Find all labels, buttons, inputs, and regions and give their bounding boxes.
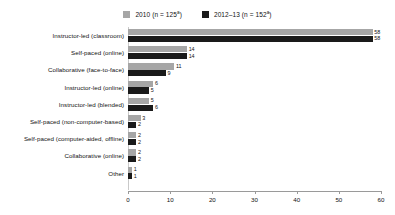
- chart-legend: 2010 (n = 125a) 2012–13 (n = 152a): [0, 10, 395, 18]
- legend-label-2012-13: 2012–13 (n = 152a): [214, 10, 272, 18]
- bar-value-label: 11: [176, 62, 182, 70]
- chart-row: Self-paced (online)1414: [0, 44, 395, 61]
- bar-series-2012-13: [128, 87, 149, 93]
- chart-row: Instructor-led (classroom)5858: [0, 27, 395, 44]
- bar-series-2010: [128, 98, 149, 104]
- legend-swatch-2010: [123, 11, 130, 18]
- category-label: Instructor-led (blended): [0, 101, 128, 108]
- bar-value-label: 6: [155, 103, 158, 111]
- legend-entry-2012-13: 2012–13 (n = 152a): [202, 10, 272, 18]
- bar-group: 22: [128, 147, 381, 164]
- bar-series-2012-13: [128, 139, 136, 145]
- category-label: Self-paced (computer-aided, offline): [0, 135, 128, 142]
- chart-row: Self-paced (computer-aided, offline)22: [0, 130, 395, 147]
- chart-row: Collaborative (face-to-face)119: [0, 61, 395, 78]
- bar-group: 11: [128, 165, 381, 182]
- bar-series-2010: [128, 29, 373, 35]
- x-axis-tick-label: 30: [251, 196, 258, 203]
- bar-group: 22: [128, 130, 381, 147]
- bar-value-label: 9: [168, 69, 171, 77]
- x-axis-tick: [255, 191, 256, 194]
- x-axis-tick: [170, 191, 171, 194]
- legend-label-2010: 2010 (n = 125a): [135, 10, 182, 18]
- x-axis-tick: [381, 191, 382, 194]
- bar-value-label: 14: [189, 52, 195, 60]
- x-axis-tick: [212, 191, 213, 194]
- bar-series-2010: [128, 46, 187, 52]
- x-axis-tick-label: 10: [167, 196, 174, 203]
- category-label: Self-paced (non-computer-based): [0, 118, 128, 125]
- x-axis-tick-label: 60: [378, 196, 385, 203]
- chart-row: Collaborative (online)22: [0, 147, 395, 164]
- category-label: Instructor-led (classroom): [0, 32, 128, 39]
- bar-series-2012-13: [128, 36, 373, 42]
- bar-value-label: 3: [142, 114, 145, 122]
- legend-swatch-2012-13: [202, 11, 209, 18]
- category-label: Self-paced (online): [0, 49, 128, 56]
- legend-label-2012-13-text: 2012–13 (n = 152: [214, 11, 267, 18]
- bar-value-label: 2: [138, 120, 141, 128]
- bar-series-2010: [128, 167, 132, 173]
- bar-value-label: 5: [151, 96, 154, 104]
- chart-row: Instructor-led (online)65: [0, 79, 395, 96]
- bar-value-label: 6: [155, 79, 158, 87]
- bar-group: 119: [128, 61, 381, 78]
- category-label: Collaborative (face-to-face): [0, 66, 128, 73]
- category-label: Collaborative (online): [0, 152, 128, 159]
- x-axis-tick-label: 0: [126, 196, 129, 203]
- plot-area: Instructor-led (classroom)5858Self-paced…: [0, 27, 395, 190]
- bar-rows: Instructor-led (classroom)5858Self-paced…: [0, 27, 395, 182]
- category-label: Other: [0, 170, 128, 177]
- bar-group: 56: [128, 96, 381, 113]
- bar-series-2010: [128, 132, 136, 138]
- bar-value-label: 58: [374, 34, 380, 42]
- bar-group: 32: [128, 113, 381, 130]
- category-label: Instructor-led (online): [0, 84, 128, 91]
- bar-series-2012-13: [128, 156, 136, 162]
- bar-series-2012-13: [128, 173, 132, 179]
- bar-value-label: 1: [134, 172, 137, 180]
- x-axis-tick-label: 50: [335, 196, 342, 203]
- x-axis-tick: [128, 191, 129, 194]
- bar-group: 65: [128, 79, 381, 96]
- x-axis-tick: [297, 191, 298, 194]
- bar-series-2012-13: [128, 53, 187, 59]
- chart-row: Instructor-led (blended)56: [0, 96, 395, 113]
- bar-series-2010: [128, 149, 136, 155]
- x-axis-tick-label: 40: [293, 196, 300, 203]
- bar-group: 1414: [128, 44, 381, 61]
- bar-series-2012-13: [128, 122, 136, 128]
- bar-series-2012-13: [128, 70, 166, 76]
- legend-entry-2010: 2010 (n = 125a): [123, 10, 182, 18]
- bar-group: 5858: [128, 27, 381, 44]
- legend-label-2010-text: 2010 (n = 125: [135, 11, 177, 18]
- x-axis: 0102030405060: [128, 191, 381, 192]
- x-axis-tick-label: 20: [209, 196, 216, 203]
- legend-superscript-2010: a: [177, 10, 180, 15]
- legend-superscript-2012-13: a: [267, 10, 270, 15]
- bar-value-label: 2: [138, 155, 141, 163]
- horizontal-bar-chart: 2010 (n = 125a) 2012–13 (n = 152a) Instr…: [0, 0, 395, 215]
- x-axis-tick: [339, 191, 340, 194]
- bar-value-label: 2: [138, 138, 141, 146]
- chart-row: Other11: [0, 165, 395, 182]
- chart-row: Self-paced (non-computer-based)32: [0, 113, 395, 130]
- bar-series-2012-13: [128, 105, 153, 111]
- bar-value-label: 5: [151, 86, 154, 94]
- bar-series-2010: [128, 81, 153, 87]
